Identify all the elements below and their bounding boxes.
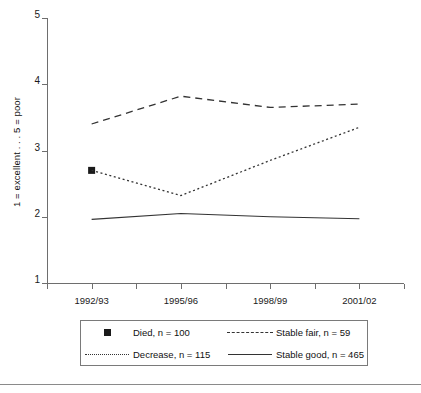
legend-row: Died, n = 100Stable fair, n = 59 bbox=[81, 321, 367, 344]
legend-item-stable-fair[interactable]: Stable fair, n = 59 bbox=[224, 321, 367, 344]
y-tick-label: 4 bbox=[34, 76, 40, 86]
y-tick-label: 1 bbox=[34, 275, 40, 285]
data-marker-died bbox=[88, 167, 95, 174]
solid-line-icon bbox=[228, 354, 272, 355]
chart-figure: 1 = excellent . . . 5 = poor 12345 1992/… bbox=[0, 0, 421, 393]
footer-rule bbox=[0, 384, 421, 385]
legend-item-stable-good[interactable]: Stable good, n = 465 bbox=[224, 343, 367, 366]
dotted-line-icon bbox=[85, 354, 129, 355]
series-line-stable-fair bbox=[92, 96, 360, 124]
series-line-stable-good bbox=[92, 213, 360, 219]
legend-label: Stable good, n = 465 bbox=[276, 349, 364, 360]
chart-legend: Died, n = 100Stable fair, n = 59 Decreas… bbox=[80, 320, 368, 366]
y-tick-label: 2 bbox=[34, 209, 40, 219]
series-plot bbox=[47, 16, 404, 288]
legend-swatch-solid-line-icon bbox=[224, 348, 276, 362]
legend-swatch-dotted-line-icon bbox=[81, 348, 133, 362]
x-tick-mark bbox=[404, 284, 405, 289]
legend-label: Stable fair, n = 59 bbox=[276, 327, 350, 338]
legend-row: Decrease, n = 115Stable good, n = 465 bbox=[81, 343, 367, 366]
plot-area: 12345 1992/931995/961998/992001/02 bbox=[47, 16, 404, 288]
x-tick-label-1: 1995/96 bbox=[164, 296, 198, 306]
filled-square-icon bbox=[104, 329, 111, 336]
legend-label: Decrease, n = 115 bbox=[133, 349, 210, 360]
legend-swatch-dashed-line-icon bbox=[224, 326, 276, 340]
x-tick-label-0: 1992/93 bbox=[74, 296, 108, 306]
y-tick-label: 3 bbox=[34, 143, 40, 153]
legend-item-died[interactable]: Died, n = 100 bbox=[81, 321, 224, 344]
y-tick-label: 5 bbox=[34, 10, 40, 20]
x-tick-label-3: 2001/02 bbox=[342, 296, 376, 306]
dashed-line-icon bbox=[227, 332, 273, 333]
y-axis-title: 1 = excellent . . . 5 = poor bbox=[10, 16, 24, 288]
legend-swatch-filled-square-icon bbox=[81, 326, 133, 340]
legend-label: Died, n = 100 bbox=[133, 327, 190, 338]
x-tick-label-2: 1998/99 bbox=[253, 296, 287, 306]
series-line-decrease bbox=[92, 127, 360, 195]
legend-item-decrease[interactable]: Decrease, n = 115 bbox=[81, 343, 224, 366]
